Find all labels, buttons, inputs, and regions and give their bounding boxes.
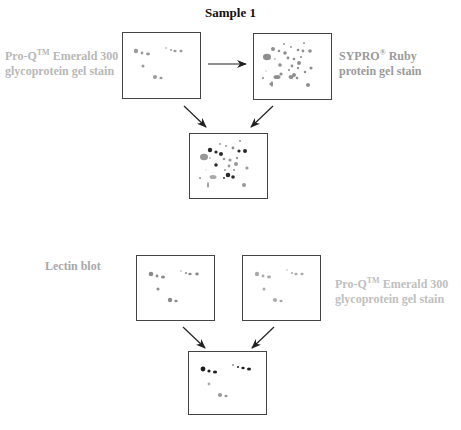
spots-sypro-ruby: [262, 42, 313, 87]
spots-lectin-blot: [149, 270, 199, 302]
arrow-icon: [183, 64, 274, 348]
spots-merged-top: [199, 140, 249, 188]
spots-emerald-bottom: [255, 269, 304, 302]
spots-emerald-top: [134, 47, 183, 79]
spots-merged-bottom: [201, 364, 251, 397]
diagram-overlay: [0, 0, 461, 430]
